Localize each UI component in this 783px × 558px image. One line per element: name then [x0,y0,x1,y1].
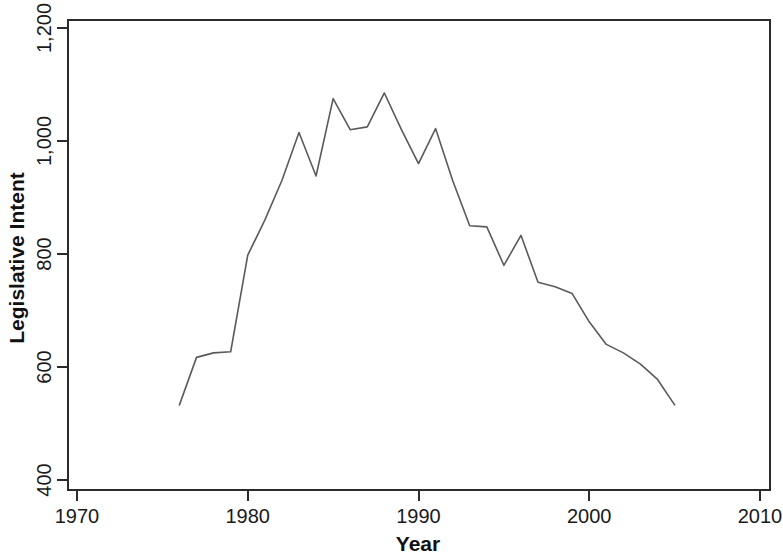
y-tick-label: 400 [33,463,55,496]
y-tick-label: 800 [33,237,55,270]
y-axis-label: Legislative Intent [5,172,28,344]
x-tick-label: 2010 [738,505,783,527]
line-chart-figure: 4006008001,0001,200 19701980199020002010… [0,0,783,558]
x-axis-label: Year [396,532,440,555]
x-tick-label: 1980 [226,505,271,527]
y-tick-label: 1,000 [33,116,55,166]
figure-background [0,0,783,558]
y-tick-label: 600 [33,350,55,383]
x-tick-label: 1970 [55,505,100,527]
x-tick-label: 2000 [567,505,612,527]
y-tick-label: 1,200 [33,3,55,53]
x-tick-label: 1990 [396,505,441,527]
